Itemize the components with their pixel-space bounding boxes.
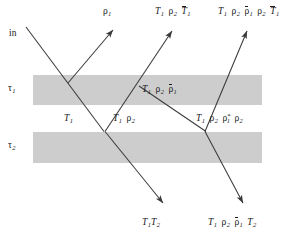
label-tau-2: τ2 (8, 141, 15, 151)
label-t1-t2: T1T2 (142, 218, 160, 228)
slab-tau-2 (33, 132, 262, 163)
ray-diagram-figure: in ρ1 T1 ρ2 T1 T1 ρ2 ρ1 ρ2 T1 T1 ρ2 ρ1 T… (0, 0, 293, 238)
ray-paths-svg (0, 0, 293, 238)
label-rho-1: ρ1 (103, 7, 111, 17)
label-t1-rho2-rho1bar: T1 ρ2 ρ1 (142, 85, 177, 95)
label-t1-rho2-rho1bar-t2: T1 ρ2 ρ1 T2 (208, 218, 256, 228)
label-t1-rho2: T1 ρ2 (113, 114, 135, 124)
label-incident-beam: in (9, 29, 16, 39)
label-tau-1: τ1 (8, 84, 15, 94)
label-t1-rho2-t1bar: T1 ρ2 T1 (155, 7, 190, 17)
label-t1-rho2-rho1star-rho2: T1 ρ2 ρ*1 ρ2 (196, 113, 243, 124)
label-t1: T1 (64, 114, 73, 124)
label-t1-rho2-rho1bar-rho2-t1bar: T1 ρ2 ρ1 ρ2 T1 (218, 7, 279, 17)
